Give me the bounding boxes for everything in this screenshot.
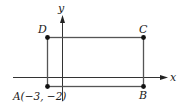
point-d-label: D (37, 23, 47, 36)
rectangle-abcd (48, 38, 144, 87)
x-axis-label: x (170, 71, 177, 84)
coordinate-diagram: x y D C B A(−3, −2) (0, 0, 183, 107)
point-a (45, 84, 50, 89)
point-b-label: B (138, 89, 147, 102)
y-axis-label: y (57, 2, 65, 15)
y-axis-arrow-icon (60, 15, 65, 23)
x-axis-arrow-icon (160, 75, 168, 80)
point-a-label: A(−3, −2) (12, 90, 66, 102)
point-c-label: C (139, 23, 148, 36)
